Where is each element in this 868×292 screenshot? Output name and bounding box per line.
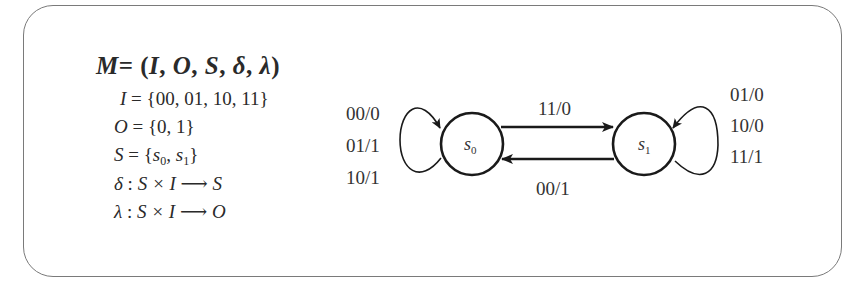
label-s1-self-3: 11/1 — [730, 146, 763, 167]
state-diagram: s0 s1 11/0 00/1 00/0 01/1 10/1 01/0 10/0… — [0, 0, 868, 292]
label-s1-self-2: 10/0 — [730, 115, 764, 136]
label-s0-self-3: 10/1 — [346, 167, 380, 188]
label-s1-self-1: 01/0 — [730, 84, 764, 105]
label-s1-to-s0: 00/1 — [536, 178, 570, 199]
s0-self-loop — [400, 108, 441, 172]
label-s0-self-1: 00/0 — [346, 103, 380, 124]
label-s0-self-2: 01/1 — [346, 135, 380, 156]
state-s1: s1 — [613, 113, 675, 175]
label-s0-to-s1: 11/0 — [538, 98, 571, 119]
s1-self-loop — [673, 107, 718, 174]
state-s0: s0 — [441, 113, 503, 175]
